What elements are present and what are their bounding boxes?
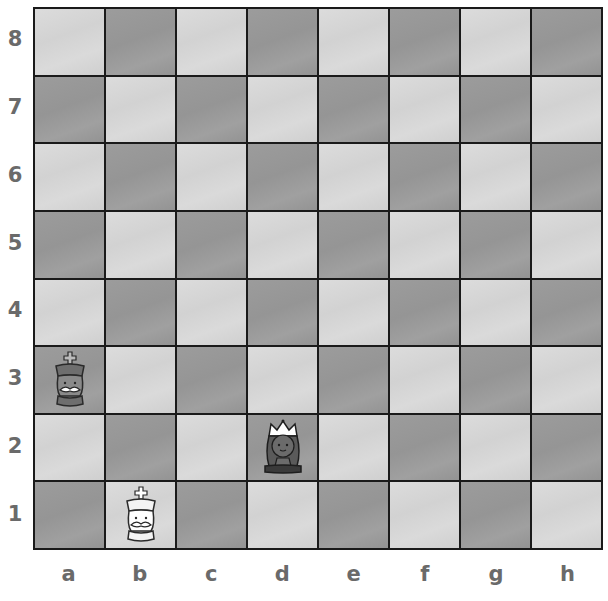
file-label-h: h <box>557 562 577 586</box>
square-g3[interactable] <box>461 347 530 413</box>
square-f7[interactable] <box>390 77 459 143</box>
square-h4[interactable] <box>532 280 601 346</box>
square-b8[interactable] <box>106 9 175 75</box>
square-a4[interactable] <box>35 280 104 346</box>
square-g1[interactable] <box>461 482 530 548</box>
square-d6[interactable] <box>248 144 317 210</box>
square-e8[interactable] <box>319 9 388 75</box>
black-queen-icon[interactable] <box>259 418 307 478</box>
square-a3[interactable] <box>35 347 104 413</box>
file-label-g: g <box>486 562 506 586</box>
square-d3[interactable] <box>248 347 317 413</box>
square-a1[interactable] <box>35 482 104 548</box>
square-h5[interactable] <box>532 212 601 278</box>
square-e2[interactable] <box>319 415 388 481</box>
square-b7[interactable] <box>106 77 175 143</box>
rank-label-4: 4 <box>5 298 25 322</box>
square-b5[interactable] <box>106 212 175 278</box>
square-c6[interactable] <box>177 144 246 210</box>
square-g8[interactable] <box>461 9 530 75</box>
square-b2[interactable] <box>106 415 175 481</box>
rank-label-2: 2 <box>5 434 25 458</box>
square-f1[interactable] <box>390 482 459 548</box>
square-e1[interactable] <box>319 482 388 548</box>
square-c1[interactable] <box>177 482 246 548</box>
square-c8[interactable] <box>177 9 246 75</box>
square-h1[interactable] <box>532 482 601 548</box>
square-a2[interactable] <box>35 415 104 481</box>
square-d4[interactable] <box>248 280 317 346</box>
square-c5[interactable] <box>177 212 246 278</box>
rank-label-1: 1 <box>5 502 25 526</box>
square-g7[interactable] <box>461 77 530 143</box>
square-g6[interactable] <box>461 144 530 210</box>
square-f2[interactable] <box>390 415 459 481</box>
square-e7[interactable] <box>319 77 388 143</box>
file-label-e: e <box>344 562 364 586</box>
square-f3[interactable] <box>390 347 459 413</box>
square-h2[interactable] <box>532 415 601 481</box>
square-h6[interactable] <box>532 144 601 210</box>
square-a5[interactable] <box>35 212 104 278</box>
white-king-icon[interactable] <box>117 485 165 545</box>
square-e5[interactable] <box>319 212 388 278</box>
rank-label-5: 5 <box>5 231 25 255</box>
square-f6[interactable] <box>390 144 459 210</box>
square-a7[interactable] <box>35 77 104 143</box>
chess-board <box>33 7 603 550</box>
square-f5[interactable] <box>390 212 459 278</box>
square-h7[interactable] <box>532 77 601 143</box>
file-label-b: b <box>130 562 150 586</box>
square-e3[interactable] <box>319 347 388 413</box>
square-b1[interactable] <box>106 482 175 548</box>
rank-label-3: 3 <box>5 366 25 390</box>
square-d5[interactable] <box>248 212 317 278</box>
rank-label-8: 8 <box>5 27 25 51</box>
square-d8[interactable] <box>248 9 317 75</box>
square-b3[interactable] <box>106 347 175 413</box>
square-b6[interactable] <box>106 144 175 210</box>
square-e6[interactable] <box>319 144 388 210</box>
square-d7[interactable] <box>248 77 317 143</box>
square-a6[interactable] <box>35 144 104 210</box>
square-b4[interactable] <box>106 280 175 346</box>
rank-label-7: 7 <box>5 95 25 119</box>
square-c2[interactable] <box>177 415 246 481</box>
file-label-f: f <box>415 562 435 586</box>
square-h3[interactable] <box>532 347 601 413</box>
square-g4[interactable] <box>461 280 530 346</box>
square-h8[interactable] <box>532 9 601 75</box>
square-e4[interactable] <box>319 280 388 346</box>
square-c7[interactable] <box>177 77 246 143</box>
square-d2[interactable] <box>248 415 317 481</box>
square-f4[interactable] <box>390 280 459 346</box>
file-label-c: c <box>201 562 221 586</box>
square-d1[interactable] <box>248 482 317 548</box>
square-c3[interactable] <box>177 347 246 413</box>
square-f8[interactable] <box>390 9 459 75</box>
file-label-a: a <box>59 562 79 586</box>
square-a8[interactable] <box>35 9 104 75</box>
file-label-d: d <box>272 562 292 586</box>
square-g5[interactable] <box>461 212 530 278</box>
square-g2[interactable] <box>461 415 530 481</box>
square-c4[interactable] <box>177 280 246 346</box>
rank-label-6: 6 <box>5 163 25 187</box>
black-king-icon[interactable] <box>46 350 94 410</box>
